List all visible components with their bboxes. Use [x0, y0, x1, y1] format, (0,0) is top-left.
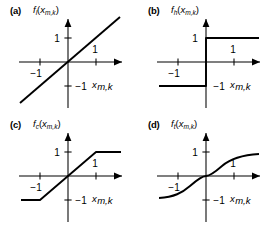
x-ticklabel-neg1-d: −1	[168, 182, 180, 193]
y-ticklabel-pos1-c: 1	[54, 147, 60, 158]
x-ticklabel-neg1-b: −1	[168, 68, 180, 79]
y-ticklabel-neg1-d: −1	[213, 195, 225, 206]
x-ticklabel-neg1-a: −1	[30, 68, 42, 79]
x-ticklabel-neg1-c: −1	[30, 182, 42, 193]
panel-a-linear: (a) fl(xm,k) −1 1 1 −1 xm,k	[0, 0, 137, 115]
x-axis-arrowhead-c	[114, 173, 122, 180]
y-ticklabel-pos1-d: 1	[192, 147, 198, 158]
x-ticklabel-pos1-a: 1	[92, 44, 98, 55]
x-axis-label-a: xm,k	[91, 79, 114, 92]
panel-d-sigmoid: (d) ft(xm,k) −1 1 1 −1 xm,k	[138, 114, 275, 229]
x-axis-arrowhead-b	[252, 59, 260, 66]
x-axis-label-c: xm,k	[91, 193, 114, 206]
figure-panel-grid: (a) fl(xm,k) −1 1 1 −1 xm,k (b) fh(xm,k)	[0, 0, 275, 230]
y-ticklabel-neg1-c: −1	[75, 195, 87, 206]
x-ticklabel-pos1-c: 1	[92, 158, 98, 169]
x-axis-arrowhead-d	[252, 173, 260, 180]
y-axis-arrowhead-d	[203, 133, 210, 141]
x-axis-label-d: xm,k	[229, 193, 252, 206]
y-ticklabel-pos1-b: 1	[192, 33, 198, 44]
panel-d-plot: −1 1 1 −1 xm,k	[138, 114, 275, 229]
x-axis-arrowhead-a	[114, 59, 122, 66]
y-ticklabel-pos1-a: 1	[54, 33, 60, 44]
x-ticklabel-pos1-b: 1	[230, 44, 236, 55]
panel-c-plot: −1 1 1 −1 xm,k	[0, 114, 137, 229]
panel-b-hard-limiter: (b) fh(xm,k) −1 1 1 −1 xm,k	[138, 0, 275, 115]
panel-a-plot: −1 1 1 −1 xm,k	[0, 0, 137, 115]
y-ticklabel-neg1-a: −1	[75, 81, 87, 92]
x-axis-label-b: xm,k	[229, 79, 252, 92]
y-axis-arrowhead-c	[65, 133, 72, 141]
y-axis-arrowhead-b	[203, 19, 210, 27]
panel-c-clipper: (c) fc(xm,k) −1 1 1 −1 xm,k	[0, 114, 137, 229]
y-ticklabel-neg1-b: −1	[213, 81, 225, 92]
y-axis-arrowhead-a	[65, 19, 72, 27]
panel-b-plot: −1 1 1 −1 xm,k	[138, 0, 275, 115]
